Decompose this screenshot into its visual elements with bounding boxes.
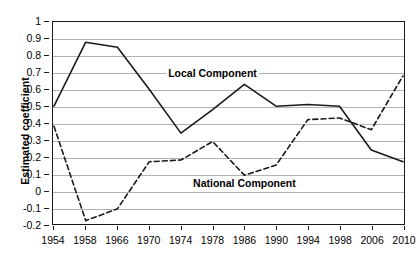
x-tick-label: 1990 — [265, 234, 288, 246]
y-tick-label: 0.2 — [26, 151, 41, 163]
x-tick-label: 1978 — [201, 234, 224, 246]
y-tick-label: 0.7 — [26, 66, 41, 78]
y-tick-label: 0 — [35, 185, 41, 197]
x-tick-mark — [372, 226, 373, 230]
x-tick-mark — [181, 226, 182, 230]
y-tick-mark — [44, 191, 49, 192]
y-tick-mark — [44, 225, 49, 226]
x-tick-label: 1958 — [73, 234, 96, 246]
x-tick-label: 1970 — [137, 234, 160, 246]
x-tick-label: 2010 — [392, 234, 415, 246]
x-tick-label: 1954 — [41, 234, 64, 246]
y-tick-label: 0.8 — [26, 49, 41, 61]
y-axis-tick-labels: 10.90.80.70.60.50.40.30.20.10-0.1-0.2 — [0, 21, 50, 225]
x-tick-label: 2006 — [360, 234, 383, 246]
y-tick-mark — [44, 123, 49, 124]
x-tick-mark — [117, 226, 118, 230]
y-tick-label: 0.9 — [26, 32, 41, 44]
series-layer — [53, 22, 404, 224]
y-tick-mark — [44, 21, 49, 22]
y-tick-mark — [44, 72, 49, 73]
y-tick-mark — [44, 106, 49, 107]
series-line-local-component — [54, 42, 403, 162]
y-tick-mark — [44, 208, 49, 209]
x-tick-mark — [276, 226, 277, 230]
y-tick-label: -0.1 — [23, 202, 41, 214]
y-tick-mark — [44, 55, 49, 56]
x-tick-mark — [85, 226, 86, 230]
series-label-national-component: National Component — [191, 177, 298, 189]
x-tick-mark — [308, 226, 309, 230]
x-tick-mark — [340, 226, 341, 230]
chart-container: Estimated coefficient 10.90.80.70.60.50.… — [0, 0, 420, 262]
x-tick-label: 1966 — [105, 234, 128, 246]
x-axis-tick-labels: 1954195819661970197419781986199019941998… — [52, 226, 405, 260]
series-label-local-component: Local Component — [166, 67, 259, 79]
y-tick-label: 0.1 — [26, 168, 41, 180]
x-tick-label: 1986 — [233, 234, 256, 246]
y-tick-mark — [44, 174, 49, 175]
x-tick-label: 1974 — [169, 234, 192, 246]
y-tick-label: 0.5 — [26, 100, 41, 112]
y-tick-label: 0.4 — [26, 117, 41, 129]
y-tick-label: -0.2 — [23, 219, 41, 231]
x-tick-label: 1998 — [328, 234, 351, 246]
x-tick-mark — [149, 226, 150, 230]
x-tick-mark — [53, 226, 54, 230]
x-tick-label: 1994 — [297, 234, 320, 246]
x-tick-mark — [244, 226, 245, 230]
y-tick-mark — [44, 157, 49, 158]
y-tick-mark — [44, 89, 49, 90]
y-tick-label: 1 — [35, 15, 41, 27]
y-tick-label: 0.6 — [26, 83, 41, 95]
y-tick-mark — [44, 38, 49, 39]
x-tick-mark — [404, 226, 405, 230]
y-tick-label: 0.3 — [26, 134, 41, 146]
plot-area — [52, 21, 405, 225]
x-tick-mark — [213, 226, 214, 230]
y-tick-mark — [44, 140, 49, 141]
